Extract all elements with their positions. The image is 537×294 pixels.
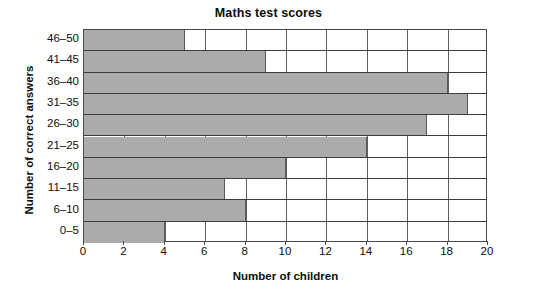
- x-tick-label-16: 16: [386, 245, 426, 257]
- bar-21–25: [84, 137, 367, 157]
- x-tick-label-14: 14: [346, 245, 386, 257]
- y-tick-label-41–45: 41–45: [9, 53, 79, 65]
- x-tick-label-12: 12: [305, 245, 345, 257]
- x-tick-label-18: 18: [427, 245, 467, 257]
- y-tick-label-21–25: 21–25: [9, 139, 79, 151]
- x-tick-label-2: 2: [103, 245, 143, 257]
- bar-row: [84, 137, 486, 158]
- bar-31–35: [84, 94, 468, 114]
- bars-layer: [84, 30, 486, 241]
- bar-row: [84, 73, 486, 94]
- bar-row: [84, 158, 486, 179]
- bar-row: [84, 115, 486, 136]
- x-axis-tick-labels: 02468101214161820: [83, 245, 487, 265]
- y-tick-label-26–30: 26–30: [9, 117, 79, 129]
- chart-title: Maths test scores: [0, 6, 537, 20]
- y-tick-label-0–5: 0–5: [9, 224, 79, 236]
- bar-row: [84, 200, 486, 221]
- bar-16–20: [84, 158, 286, 178]
- x-tick-label-0: 0: [63, 245, 103, 257]
- x-tick-label-10: 10: [265, 245, 305, 257]
- y-tick-label-36–40: 36–40: [9, 75, 79, 87]
- x-axis-title: Number of children: [83, 270, 488, 282]
- x-tick-label-4: 4: [144, 245, 184, 257]
- y-tick-label-11–15: 11–15: [9, 181, 79, 193]
- bar-46–50: [84, 30, 185, 50]
- bar-6–10: [84, 200, 246, 220]
- y-tick-label-31–35: 31–35: [9, 96, 79, 108]
- bar-row: [84, 94, 486, 115]
- bar-41–45: [84, 51, 266, 71]
- bar-row: [84, 222, 486, 243]
- bar-11–15: [84, 179, 225, 199]
- bar-row: [84, 51, 486, 72]
- bar-36–40: [84, 73, 448, 93]
- plot-area: [83, 29, 487, 242]
- bar-row: [84, 30, 486, 51]
- x-tick-label-8: 8: [225, 245, 265, 257]
- y-tick-label-46–50: 46–50: [9, 32, 79, 44]
- bar-0–5: [84, 222, 165, 243]
- chart-figure: Maths test scores Number of correct answ…: [0, 0, 537, 294]
- x-tick-label-6: 6: [184, 245, 224, 257]
- y-tick-label-16–20: 16–20: [9, 160, 79, 172]
- x-tick-label-20: 20: [467, 245, 507, 257]
- y-axis-tick-labels: 46–5041–4536–4031–3526–3021–2516–2011–15…: [8, 29, 79, 242]
- y-tick-label-6–10: 6–10: [9, 203, 79, 215]
- bar-row: [84, 179, 486, 200]
- bar-26–30: [84, 115, 427, 135]
